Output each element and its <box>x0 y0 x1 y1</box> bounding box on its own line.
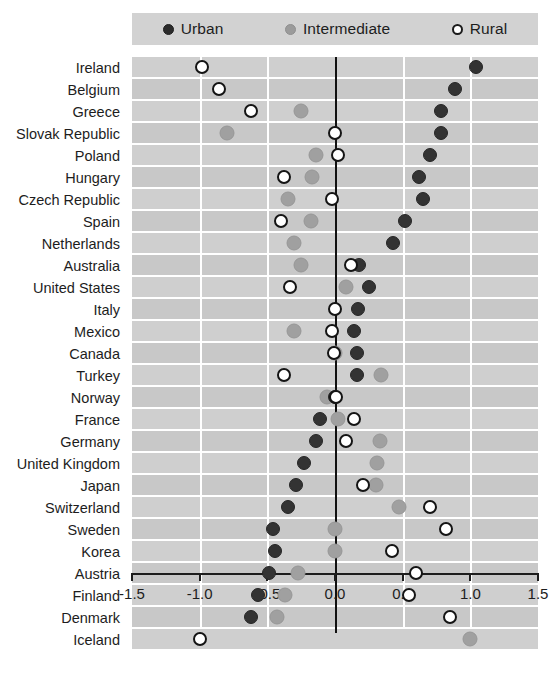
data-point-intermediate[interactable] <box>369 456 384 471</box>
chart-row <box>132 343 538 365</box>
category-label: Korea <box>0 541 126 563</box>
data-point-rural[interactable] <box>439 522 453 536</box>
data-point-rural[interactable] <box>283 280 297 294</box>
data-point-rural[interactable] <box>331 148 345 162</box>
data-point-urban[interactable] <box>347 324 361 338</box>
chart-row <box>132 387 538 409</box>
data-point-intermediate[interactable] <box>328 544 343 559</box>
data-point-rural[interactable] <box>339 434 353 448</box>
data-point-rural[interactable] <box>325 324 339 338</box>
data-point-intermediate[interactable] <box>277 588 292 603</box>
legend-item-urban[interactable]: Urban <box>163 20 224 38</box>
filled-gray-circle-icon <box>285 24 296 35</box>
data-point-intermediate[interactable] <box>304 170 319 185</box>
data-point-rural[interactable] <box>344 258 358 272</box>
data-point-intermediate[interactable] <box>287 324 302 339</box>
chart-row <box>132 79 538 101</box>
chart-legend: UrbanIntermediateRural <box>132 13 538 45</box>
data-point-urban[interactable] <box>350 368 364 382</box>
data-point-urban[interactable] <box>262 566 276 580</box>
data-point-rural[interactable] <box>347 412 361 426</box>
data-point-intermediate[interactable] <box>328 522 343 537</box>
data-point-urban[interactable] <box>412 170 426 184</box>
data-point-urban[interactable] <box>251 588 265 602</box>
data-point-rural[interactable] <box>325 192 339 206</box>
data-point-urban[interactable] <box>351 302 365 316</box>
data-point-urban[interactable] <box>297 456 311 470</box>
data-point-urban[interactable] <box>309 434 323 448</box>
legend-item-intermediate[interactable]: Intermediate <box>285 20 390 38</box>
data-point-urban[interactable] <box>416 192 430 206</box>
data-point-urban[interactable] <box>434 126 448 140</box>
data-point-rural[interactable] <box>329 390 343 404</box>
data-point-urban[interactable] <box>289 478 303 492</box>
data-point-rural[interactable] <box>328 126 342 140</box>
x-axis-tick <box>402 573 404 581</box>
data-point-urban[interactable] <box>281 500 295 514</box>
x-axis-tick <box>334 573 336 581</box>
category-label: Poland <box>0 145 126 167</box>
data-point-rural[interactable] <box>277 170 291 184</box>
category-label: Czech Republic <box>0 189 126 211</box>
category-label: Canada <box>0 343 126 365</box>
x-axis-tick-label: 1.0 <box>460 585 481 602</box>
data-point-intermediate[interactable] <box>338 280 353 295</box>
data-point-urban[interactable] <box>398 214 412 228</box>
data-point-intermediate[interactable] <box>219 126 234 141</box>
data-point-urban[interactable] <box>434 104 448 118</box>
category-label: United States <box>0 277 126 299</box>
data-point-rural[interactable] <box>277 368 291 382</box>
data-point-urban[interactable] <box>268 544 282 558</box>
chart-row <box>132 277 538 299</box>
data-point-intermediate[interactable] <box>287 236 302 251</box>
data-point-urban[interactable] <box>313 412 327 426</box>
legend-item-rural[interactable]: Rural <box>452 20 508 38</box>
data-point-intermediate[interactable] <box>330 412 345 427</box>
data-point-urban[interactable] <box>362 280 376 294</box>
data-point-intermediate[interactable] <box>294 258 309 273</box>
data-point-urban[interactable] <box>423 148 437 162</box>
data-point-rural[interactable] <box>327 346 341 360</box>
x-axis-tick <box>537 573 539 581</box>
data-point-rural[interactable] <box>443 610 457 624</box>
category-label: Iceland <box>0 629 126 651</box>
category-label: Australia <box>0 255 126 277</box>
data-point-intermediate[interactable] <box>291 566 306 581</box>
data-point-rural[interactable] <box>409 566 423 580</box>
category-label: Greece <box>0 101 126 123</box>
data-point-rural[interactable] <box>193 632 207 646</box>
data-point-rural[interactable] <box>195 60 209 74</box>
data-point-intermediate[interactable] <box>374 368 389 383</box>
data-point-urban[interactable] <box>244 610 258 624</box>
data-point-rural[interactable] <box>328 302 342 316</box>
data-point-rural[interactable] <box>274 214 288 228</box>
data-point-rural[interactable] <box>402 588 416 602</box>
data-point-rural[interactable] <box>356 478 370 492</box>
category-label: Switzerland <box>0 497 126 519</box>
open-circle-icon <box>452 24 463 35</box>
x-axis: -1.5-1.0-0.50.00.51.01.5 <box>132 573 538 633</box>
category-label: Germany <box>0 431 126 453</box>
data-point-intermediate[interactable] <box>463 632 478 647</box>
chart-row <box>132 321 538 343</box>
data-point-urban[interactable] <box>469 60 483 74</box>
data-point-urban[interactable] <box>350 346 364 360</box>
data-point-rural[interactable] <box>244 104 258 118</box>
data-point-intermediate[interactable] <box>269 610 284 625</box>
data-point-intermediate[interactable] <box>303 214 318 229</box>
data-point-rural[interactable] <box>212 82 226 96</box>
data-point-intermediate[interactable] <box>294 104 309 119</box>
data-point-intermediate[interactable] <box>391 500 406 515</box>
chart-row <box>132 145 538 167</box>
chart-row <box>132 167 538 189</box>
data-point-rural[interactable] <box>385 544 399 558</box>
data-point-rural[interactable] <box>423 500 437 514</box>
data-point-urban[interactable] <box>266 522 280 536</box>
data-point-urban[interactable] <box>386 236 400 250</box>
data-point-intermediate[interactable] <box>309 148 324 163</box>
chart-row <box>132 233 538 255</box>
data-point-urban[interactable] <box>448 82 462 96</box>
data-point-intermediate[interactable] <box>372 434 387 449</box>
data-point-intermediate[interactable] <box>280 192 295 207</box>
category-label: United Kingdom <box>0 453 126 475</box>
